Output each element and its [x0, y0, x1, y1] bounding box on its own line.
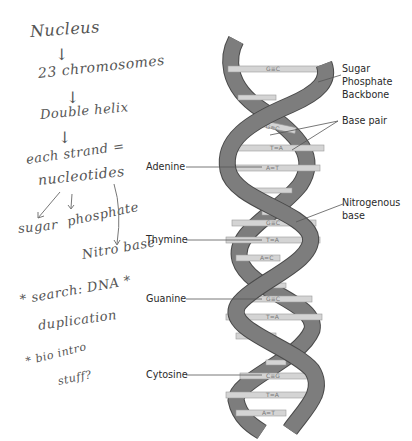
label-adenine: Adenine	[146, 160, 185, 173]
svg-text:T=A: T=A	[265, 313, 280, 320]
base-pair-rung	[238, 95, 276, 100]
base-pair-rung: A=T	[236, 409, 286, 416]
base-pair-rung: G≡C	[228, 65, 320, 72]
label-base-pair: Base pair	[342, 114, 387, 127]
label-cytosine: Cytosine	[146, 368, 188, 381]
label-nitrogenous-base: Nitrogenous base	[342, 196, 400, 222]
svg-text:A=T: A=T	[262, 409, 275, 416]
svg-text:G≡C: G≡C	[266, 219, 280, 226]
svg-text:T=A: T=A	[265, 391, 280, 398]
label-line-base: base	[342, 209, 400, 222]
label-sugar-phosphate-backbone: Sugar Phosphate Backbone	[342, 62, 392, 101]
base-pair-rung: C≡G	[240, 372, 312, 379]
base-pair-rung: T=A	[236, 144, 324, 151]
base-pair-rung: A=T	[228, 164, 320, 171]
base-pair-rung: A=C	[236, 254, 280, 261]
svg-text:T=A: T=A	[265, 236, 280, 243]
label-line-sugar: Sugar	[342, 62, 392, 75]
svg-text:G≡C: G≡C	[266, 65, 280, 72]
label-line-phosphate: Phosphate	[342, 75, 392, 88]
svg-text:C≡G: C≡G	[266, 372, 280, 379]
label-thymine: Thymine	[146, 233, 188, 246]
svg-text:A=C: A=C	[260, 254, 273, 261]
leader-nitrogenous-base	[296, 204, 343, 222]
svg-text:G≡C: G≡C	[266, 295, 280, 302]
svg-text:T=A: T=A	[269, 144, 284, 151]
label-line-backbone: Backbone	[342, 88, 392, 101]
svg-text:A=T: A=T	[266, 164, 279, 171]
label-line-nitrogenous: Nitrogenous	[342, 196, 400, 209]
base-pair-rung	[266, 360, 286, 365]
label-guanine: Guanine	[146, 292, 186, 305]
